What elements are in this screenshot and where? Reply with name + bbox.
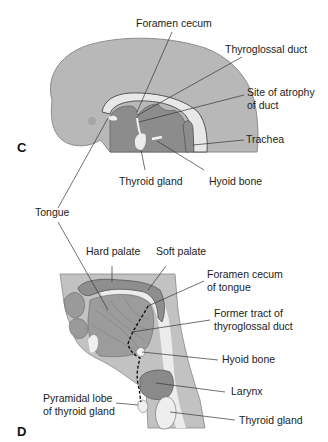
label-foramen-cecum: Foramen cecum: [136, 17, 212, 30]
label-pyramidal-lobe-line1: Pyramidal lobe: [43, 392, 112, 405]
label-hyoid-bone-d: Hyoid bone: [222, 353, 275, 366]
label-foramen-cecum-tongue-line2: of tongue: [207, 281, 251, 294]
label-tongue: Tongue: [35, 206, 69, 219]
label-trachea: Trachea: [246, 133, 284, 146]
pyramidal-lobe-shape: [138, 400, 148, 413]
label-site-of-atrophy-line1: Site of atrophy: [247, 86, 315, 99]
lower-lip: [69, 319, 88, 339]
label-thyroglossal-duct: Thyroglossal duct: [225, 43, 307, 56]
label-former-tract-line2: thyroglossal duct: [214, 320, 293, 333]
tongue-mass: [88, 294, 154, 356]
label-thyroid-gland-c: Thyroid gland: [119, 175, 183, 188]
label-former-tract-line1: Former tract of: [214, 307, 283, 320]
panel-letter-c: C: [17, 140, 26, 155]
eye-spot: [88, 117, 96, 125]
label-hyoid-bone-c: Hyoid bone: [209, 175, 262, 188]
label-foramen-cecum-tongue-line1: Foramen cecum: [207, 268, 283, 281]
label-soft-palate: Soft palate: [156, 245, 206, 258]
label-thyroid-gland-d: Thyroid gland: [239, 414, 303, 427]
label-hard-palate: Hard palate: [86, 245, 140, 258]
label-pyramidal-lobe-line2: of thyroid gland: [43, 405, 115, 418]
diagram-canvas: [0, 0, 328, 442]
label-site-of-atrophy-line2: of duct: [247, 99, 279, 112]
panel-letter-d: D: [17, 424, 26, 439]
label-larynx: Larynx: [231, 385, 263, 398]
